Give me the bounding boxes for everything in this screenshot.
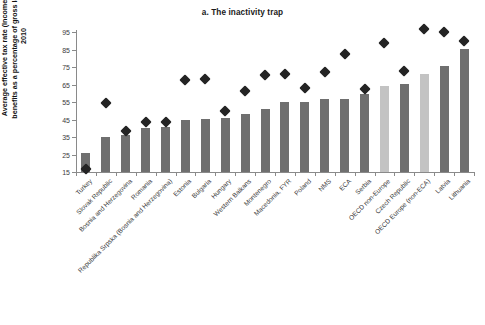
diamond-marker bbox=[140, 116, 151, 127]
x-axis-tick bbox=[116, 172, 117, 176]
x-axis-tick bbox=[235, 172, 236, 176]
bar bbox=[340, 99, 349, 173]
diamond-marker bbox=[279, 68, 290, 79]
diamond-marker bbox=[160, 116, 171, 127]
diamond-marker bbox=[220, 106, 231, 117]
chart-title: a. The inactivity trap bbox=[0, 8, 485, 17]
y-axis-tick bbox=[72, 67, 76, 68]
x-axis-tick bbox=[96, 172, 97, 176]
y-axis-tick-label: 35 bbox=[62, 134, 70, 141]
bar bbox=[380, 86, 389, 172]
bar bbox=[360, 94, 369, 172]
y-axis-line bbox=[76, 30, 77, 174]
diamond-marker bbox=[299, 82, 310, 93]
x-axis-tick bbox=[176, 172, 177, 176]
bar bbox=[181, 120, 190, 173]
bar bbox=[400, 84, 409, 172]
x-axis-tick bbox=[335, 172, 336, 176]
x-axis-tick bbox=[195, 172, 196, 176]
x-axis-tick bbox=[156, 172, 157, 176]
bar bbox=[221, 118, 230, 172]
x-axis-label: Poland bbox=[293, 178, 312, 197]
x-axis-label: NMS bbox=[317, 178, 332, 193]
x-axis-tick bbox=[375, 172, 376, 176]
bar bbox=[261, 109, 270, 172]
y-axis-tick bbox=[72, 137, 76, 138]
diamond-marker bbox=[259, 70, 270, 81]
y-axis-tick-label: 45 bbox=[62, 116, 70, 123]
x-axis-tick bbox=[136, 172, 137, 176]
chart-figure: a. The inactivity trap Average effective… bbox=[0, 0, 485, 325]
diamond-marker bbox=[239, 85, 250, 96]
bar bbox=[241, 114, 250, 172]
y-axis-tick-label: 55 bbox=[62, 99, 70, 106]
diamond-marker bbox=[399, 65, 410, 76]
x-axis-tick bbox=[275, 172, 276, 176]
diamond-marker bbox=[339, 48, 350, 59]
diamond-marker bbox=[379, 37, 390, 48]
y-axis-tick-label: 85 bbox=[62, 46, 70, 53]
x-axis-tick bbox=[76, 172, 77, 176]
diamond-marker bbox=[359, 83, 370, 94]
x-axis-tick bbox=[474, 172, 475, 176]
diamond-marker bbox=[200, 73, 211, 84]
x-axis-label: Bulgaria bbox=[191, 178, 213, 200]
bar bbox=[300, 102, 309, 172]
x-axis-label: ECA bbox=[338, 178, 352, 192]
bar bbox=[420, 74, 429, 172]
x-axis-tick bbox=[295, 172, 296, 176]
y-axis-tick bbox=[72, 120, 76, 121]
y-axis-tick-label: 65 bbox=[62, 81, 70, 88]
bar bbox=[440, 66, 449, 172]
y-axis-title-wrapper: Average effective tax rate (Income tax p… bbox=[0, 0, 40, 124]
y-axis-tick-label: 75 bbox=[62, 64, 70, 71]
x-axis-tick bbox=[434, 172, 435, 176]
y-axis-tick bbox=[72, 50, 76, 51]
bar bbox=[121, 135, 130, 172]
plot-area: 152535455565758595 TurkeySlovak Republic… bbox=[76, 32, 474, 172]
x-axis-tick bbox=[414, 172, 415, 176]
y-axis-tick-label: 95 bbox=[62, 29, 70, 36]
bar bbox=[460, 49, 469, 172]
x-axis-tick bbox=[454, 172, 455, 176]
diamond-marker bbox=[419, 23, 430, 34]
x-axis-tick bbox=[355, 172, 356, 176]
diamond-marker bbox=[438, 26, 449, 37]
bar bbox=[161, 127, 170, 172]
diamond-marker bbox=[180, 74, 191, 85]
x-axis-tick bbox=[215, 172, 216, 176]
bar bbox=[141, 128, 150, 172]
x-axis-tick bbox=[394, 172, 395, 176]
x-axis-tick bbox=[255, 172, 256, 176]
bar bbox=[201, 119, 210, 172]
y-axis-tick bbox=[72, 32, 76, 33]
y-axis-tick-label: 15 bbox=[62, 169, 70, 176]
y-axis-tick bbox=[72, 85, 76, 86]
bar bbox=[320, 99, 329, 172]
y-axis-tick-label: 25 bbox=[62, 151, 70, 158]
y-axis-title: Average effective tax rate (Income tax p… bbox=[0, 0, 29, 124]
bar bbox=[280, 102, 289, 172]
diamond-marker bbox=[319, 66, 330, 77]
diamond-marker bbox=[458, 36, 469, 47]
diamond-marker bbox=[100, 97, 111, 108]
y-axis-tick bbox=[72, 102, 76, 103]
x-axis-tick bbox=[315, 172, 316, 176]
y-axis-tick bbox=[72, 155, 76, 156]
bar bbox=[101, 137, 110, 172]
